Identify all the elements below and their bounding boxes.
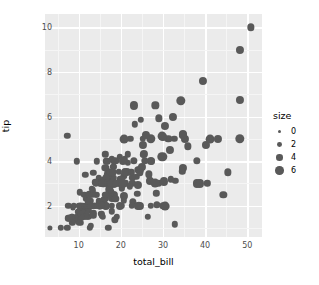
scatter-point [171,136,177,142]
legend-label: 6 [291,166,296,175]
y-tick-label: 10 [42,23,52,32]
scatter-point [136,169,143,176]
scatter-point [94,158,100,164]
scatter-point [236,46,244,54]
chart-root: 1020304050 246810 total_bill tip size 02… [0,0,319,285]
scatter-point [99,214,105,220]
scatter-point [119,179,127,187]
scatter-point [152,102,159,109]
scatter-point [112,158,119,165]
scatter-point [90,212,96,218]
legend-dot-icon [276,154,283,161]
legend-key [272,130,287,133]
scatter-point [214,135,222,143]
scatter-point [82,172,88,178]
legend-item: 2 [272,138,296,151]
scatter-point [105,225,111,231]
scatter-point [121,197,127,203]
legend-dot-icon [275,166,284,175]
legend-item: 6 [272,164,296,177]
scatter-point [220,191,227,198]
scatter-point [235,134,244,143]
legend-label: 4 [291,153,296,162]
legend-label: 0 [291,127,296,136]
scatter-point [130,101,138,109]
y-tick-label: 4 [47,157,52,166]
x-tick-label: 40 [200,241,210,250]
scatter-point [172,221,178,227]
legend-label: 2 [291,140,296,149]
legend-item: 0 [272,125,296,138]
scatter-point [166,146,174,154]
scatter-point [157,152,166,161]
scatter-point [172,178,178,184]
scatter-point [148,203,154,209]
scatter-point [134,181,142,189]
x-tick-label: 30 [158,241,168,250]
plot-panel [45,14,262,237]
scatter-point [247,24,254,31]
scatter-point [64,225,70,231]
legend-key [272,154,287,161]
scatter-point [127,183,133,189]
scatter-point [184,143,191,150]
y-axis-title: tip [0,119,11,131]
scatter-point [139,141,147,149]
legend-dot-icon [277,142,282,147]
legend: size 0246 [272,110,296,177]
legend-key [272,142,287,147]
x-axis-title: total_bill [45,256,262,267]
legend-item: 4 [272,151,296,164]
legend-key [272,166,287,175]
scatter-point [64,132,70,138]
scatter-point [196,179,204,187]
scatter-point [130,158,137,165]
scatter-point [86,225,92,231]
scatter-point [176,96,185,105]
scatter-point [155,115,162,122]
scatter-point [74,158,80,164]
scatter-point [119,134,128,143]
scatter-points [45,14,262,237]
scatter-point [132,121,138,127]
scatter-point [179,164,187,172]
scatter-point [134,190,140,196]
x-tick-label: 20 [116,241,126,250]
scatter-point [169,113,177,121]
scatter-point [137,117,143,123]
scatter-point [160,177,168,185]
scatter-point [204,180,210,186]
scatter-point [90,170,96,176]
scatter-point [47,225,52,230]
scatter-point [236,96,244,104]
scatter-point [102,151,108,157]
legend-dot-icon [278,130,281,133]
scatter-point [151,179,160,188]
scatter-point [129,175,135,181]
x-tick-label: 10 [74,241,84,250]
scatter-point [161,121,169,129]
y-tick-label: 6 [47,112,52,121]
scatter-point [145,214,151,220]
x-tick-label: 50 [242,241,252,250]
scatter-point [158,131,167,140]
legend-title: size [272,110,296,121]
scatter-point [153,190,159,196]
scatter-point [111,216,118,223]
scatter-point [199,77,207,85]
scatter-point [193,158,200,165]
y-tick-label: 2 [47,201,52,210]
legend-items: 0246 [272,125,296,177]
y-tick-label: 8 [47,67,52,76]
scatter-point [224,169,231,176]
